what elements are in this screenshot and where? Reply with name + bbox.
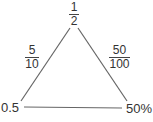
bottom-left-label: 0.5 xyxy=(1,101,19,115)
bottom-edge xyxy=(24,107,122,108)
right-edge-fraction: 50 100 xyxy=(109,45,130,70)
left-denominator: 10 xyxy=(25,59,38,70)
left-numerator: 5 xyxy=(29,45,36,56)
bottom-right-label: 50% xyxy=(126,102,152,116)
right-numerator: 50 xyxy=(113,45,126,56)
left-edge-fraction: 5 10 xyxy=(25,45,39,70)
right-denominator: 100 xyxy=(109,59,129,70)
top-vertex-fraction: 1 2 xyxy=(69,2,79,27)
top-numerator: 1 xyxy=(71,2,78,13)
top-denominator: 2 xyxy=(71,16,78,27)
